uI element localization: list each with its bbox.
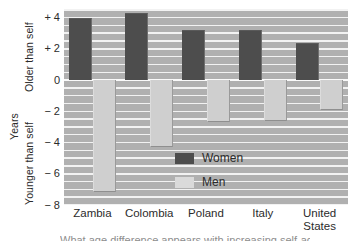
x-tick-label: Colombia <box>121 207 178 220</box>
y-tick-label: − 4 <box>34 137 60 148</box>
gridline <box>64 196 348 198</box>
gridline <box>64 32 348 34</box>
x-tick-label: UnitedStates <box>291 207 348 232</box>
bar-women <box>69 18 92 80</box>
y-axis-title: Years <box>8 113 20 140</box>
bar-women <box>239 30 262 80</box>
gridline <box>64 9 348 11</box>
x-tick-label-line: Colombia <box>121 207 178 220</box>
bar-men <box>93 80 116 192</box>
x-tick-label-line: Italy <box>234 207 291 220</box>
legend-swatch-women <box>175 153 194 164</box>
gridline <box>64 40 348 42</box>
gridline <box>64 204 348 205</box>
bar-women <box>125 13 148 80</box>
x-tick-label-line: Zambia <box>64 207 121 220</box>
chart-figure: Years Older than self Younger than self … <box>0 0 352 241</box>
x-tick-label: Zambia <box>64 207 121 220</box>
x-tick-label: Italy <box>234 207 291 220</box>
y-tick-label: − 6 <box>34 168 60 179</box>
x-tick-label: Poland <box>178 207 235 220</box>
y-tick-label: 0 <box>34 75 60 86</box>
x-tick-label-line: United <box>291 207 348 220</box>
gridline <box>64 17 348 19</box>
x-tick-label-line: States <box>291 220 348 233</box>
bar-women <box>182 30 205 80</box>
bar-men <box>207 80 230 122</box>
legend-swatch-men <box>175 177 194 188</box>
gridline <box>64 25 348 27</box>
legend-item-men: Men <box>175 172 280 192</box>
bar-men <box>150 80 173 147</box>
legend-label-men: Men <box>202 176 225 188</box>
figure-caption-sliver: What age difference appears with increas… <box>60 234 310 241</box>
y-tick-label: − 8 <box>34 200 60 211</box>
legend-label-women: Women <box>202 152 243 164</box>
chart-legend: Women Men <box>175 148 280 196</box>
y-tick-label: + 2 <box>34 43 60 54</box>
legend-item-women: Women <box>175 148 280 168</box>
x-tick-label-line: Poland <box>178 207 235 220</box>
y-axis-tick-labels: + 4+ 20− 2− 4− 6− 8 <box>34 0 60 241</box>
bar-men <box>264 80 287 121</box>
y-tick-label: − 2 <box>34 106 60 117</box>
bar-men <box>320 80 343 110</box>
bar-women <box>296 43 319 80</box>
y-tick-label: + 4 <box>34 12 60 23</box>
